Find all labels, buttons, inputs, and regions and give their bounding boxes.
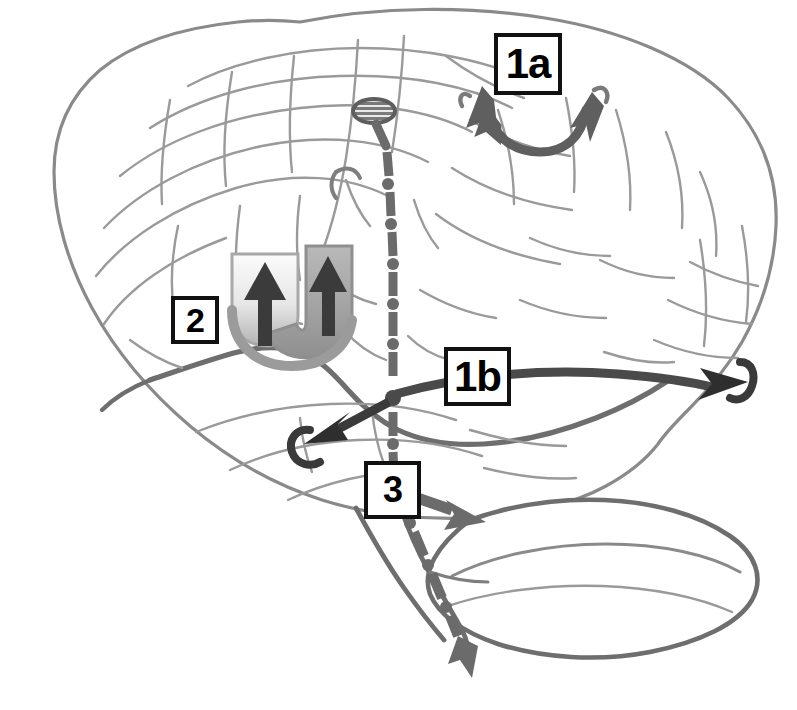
brain-diagram-svg: [0, 0, 797, 710]
label-box-1a: 1a: [494, 33, 562, 95]
label-box-2: 2: [171, 296, 219, 344]
striped-ellipse-node: [353, 99, 395, 123]
tract-terminal-arrowhead: [448, 636, 478, 678]
label-box-3: 3: [364, 461, 421, 519]
u-shaped-fiber-bundle-2: [232, 246, 352, 366]
label-box-1b: 1b: [444, 347, 511, 406]
brain-connectivity-figure: 1a 2 1b 3: [0, 0, 797, 710]
